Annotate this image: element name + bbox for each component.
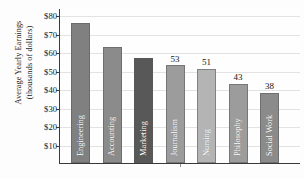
bar-chart: Average Yearly Earnings (thousands of do… [0,0,304,179]
y-axis-tick-label: $80 [24,11,57,21]
y-axis-title-line-1: Average Yearly Earnings [14,0,25,143]
y-axis-tick-label: $10 [24,141,57,151]
bar-category-label: Social Work [265,115,274,156]
bar-category-label: Philosophy [233,118,242,156]
bar-group[interactable]: Philosophy43 [229,8,248,163]
bar-value-label: 53 [171,54,180,64]
y-axis-tick-label: $50 [24,67,57,77]
bar-nursing[interactable]: Nursing [197,69,216,163]
bar-group[interactable]: Social Work38 [260,8,279,163]
bar-category-label: Marketing [139,121,148,156]
y-axis-tick-labels: $10$20$30$40$50$60$70$80 [24,0,57,179]
bar-social-work[interactable]: Social Work [260,93,279,163]
y-axis-tick-label: $70 [24,30,57,40]
bar-group[interactable]: Engineering [71,8,90,163]
bars-layer: EngineeringAccountingMarketingJournalism… [60,9,300,163]
bar-group[interactable]: Journalism53 [166,8,185,163]
bar-group[interactable]: Marketing [134,8,153,163]
bar-value-label: 38 [265,81,274,91]
bar-accounting[interactable]: Accounting [103,47,122,163]
plot-area: EngineeringAccountingMarketingJournalism… [59,9,300,164]
bar-group[interactable]: Nursing51 [197,8,216,163]
x-axis-center-tick [180,164,181,167]
bar-value-label: 43 [234,72,243,82]
y-axis-tick-label: $60 [24,48,57,58]
bar-category-label: Accounting [107,117,116,156]
y-axis-tick-label: $30 [24,104,57,114]
bar-marketing[interactable]: Marketing [134,58,153,163]
bar-journalism[interactable]: Journalism [166,65,185,163]
bar-group[interactable]: Accounting [103,8,122,163]
y-axis-tick-label: $40 [24,85,57,95]
bar-engineering[interactable]: Engineering [71,23,90,163]
y-axis-tick-label: $20 [24,122,57,132]
bar-philosophy[interactable]: Philosophy [229,84,248,163]
bar-value-label: 51 [202,57,211,67]
bar-category-label: Journalism [170,119,179,156]
bar-category-label: Nursing [202,129,211,156]
bar-category-label: Engineering [76,115,85,156]
